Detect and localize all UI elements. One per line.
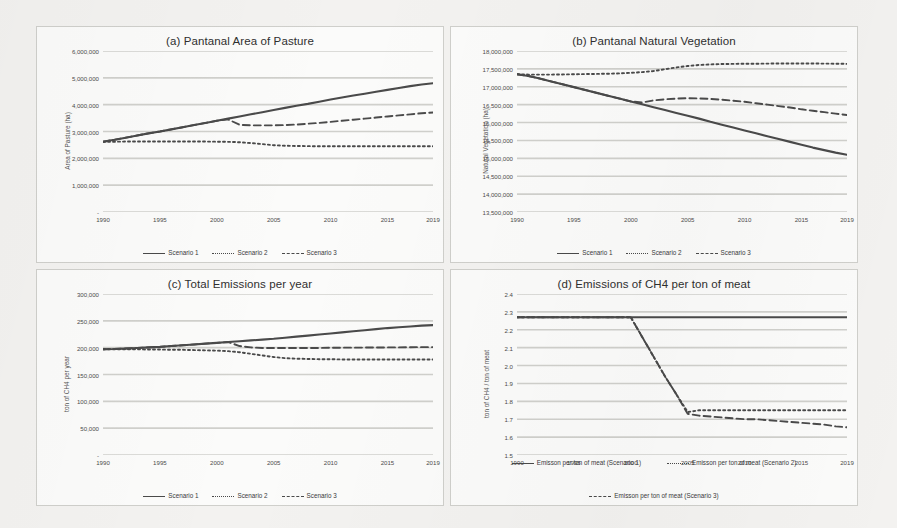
chart-title-c: (c) Total Emissions per year (37, 278, 443, 290)
y-tick-label: 1.5 (505, 452, 513, 459)
plot-area-a: Area of Pasture (ha) -1,000,0002,000,000… (37, 51, 439, 230)
y-tick-label: 17,000,000 (483, 83, 514, 90)
x-tick-label: 2019 (426, 216, 440, 223)
legend-swatch-dotted-icon (626, 250, 648, 256)
y-tick-label: 2,000,000 (72, 155, 99, 162)
y-tick-label: - (97, 452, 99, 459)
y-tick-label: 15,000,000 (483, 155, 514, 162)
y-axis-ticks-d: 1.51.61.71.81.92.02.12.22.32.4 (461, 294, 515, 455)
x-tick-label: 2005 (267, 216, 281, 223)
y-tick-label: 14,500,000 (483, 173, 514, 180)
y-tick-label: 1.9 (505, 380, 513, 387)
x-tick-label: 2000 (210, 216, 224, 223)
plot-canvas-b (517, 51, 847, 212)
x-tick-label: 2015 (381, 459, 395, 466)
legend-swatch-solid-icon (512, 460, 534, 466)
plot-canvas-d (517, 294, 847, 455)
legend-item[interactable]: Emisson per ton of meat (Scenario 2) (667, 459, 796, 466)
legend-label: Scenario 2 (651, 249, 681, 256)
y-tick-label: 50,000 (80, 425, 99, 432)
legend-item[interactable]: Scenario 3 (696, 249, 751, 256)
series-line (103, 141, 433, 146)
plot-area-d: ton of CH4 / ton of meat 1.51.61.71.81.9… (451, 294, 853, 473)
legend-item[interactable]: Scenario 3 (282, 249, 337, 256)
y-tick-label: - (97, 209, 99, 216)
x-tick-label: 1995 (153, 459, 167, 466)
legend-item[interactable]: Scenario 1 (557, 249, 612, 256)
chart-title-a: (a) Pantanal Area of Pasture (37, 35, 443, 47)
legend-item[interactable]: Emisson per ton of meat (Scenario 3) (589, 492, 718, 499)
y-axis-ticks-c: -50,000100,000150,000200,000250,000300,0… (47, 294, 101, 455)
x-tick-label: 2010 (324, 216, 338, 223)
series-line (103, 349, 433, 359)
y-tick-label: 100,000 (77, 398, 99, 405)
chart-panel-a: (a) Pantanal Area of Pasture Area of Pas… (36, 26, 444, 263)
chart-title-d: (d) Emissions of CH4 per ton of meat (451, 278, 857, 290)
y-tick-label: 250,000 (77, 317, 99, 324)
y-tick-label: 1.7 (505, 416, 513, 423)
legend-label: Scenario 3 (307, 249, 337, 256)
y-tick-label: 300,000 (77, 291, 99, 298)
legend-item[interactable]: Scenario 1 (143, 249, 198, 256)
x-tick-label: 1995 (567, 216, 581, 223)
y-tick-label: 14,000,000 (483, 191, 514, 198)
y-axis-ticks-a: -1,000,0002,000,0003,000,0004,000,0005,0… (47, 51, 101, 212)
series-lines-c (103, 294, 433, 455)
x-tick-label: 2005 (267, 459, 281, 466)
y-axis-ticks-b: 13,500,00014,000,00014,500,00015,000,000… (461, 51, 515, 212)
chart-panel-b: (b) Pantanal Natural Vegetation Natural … (450, 26, 858, 263)
x-tick-label: 2015 (381, 216, 395, 223)
chart-grid: (a) Pantanal Area of Pasture Area of Pas… (36, 26, 858, 506)
legend-swatch-dashed-icon (282, 250, 304, 256)
legend-item[interactable]: Emisson per ton of meat (Scenario 1) (512, 459, 641, 466)
legend-label: Scenario 1 (168, 249, 198, 256)
series-line (103, 325, 433, 349)
y-tick-label: 1.8 (505, 398, 513, 405)
y-tick-label: 150,000 (77, 371, 99, 378)
legend-label: Emisson per ton of meat (Scenario 3) (614, 492, 718, 499)
series-line (103, 112, 433, 141)
x-tick-label: 1990 (510, 216, 524, 223)
x-tick-label: 1995 (153, 216, 167, 223)
x-tick-label: 2000 (210, 459, 224, 466)
legend-item[interactable]: Scenario 3 (282, 492, 337, 499)
x-tick-label: 2015 (795, 216, 809, 223)
x-tick-label: 1990 (96, 216, 110, 223)
chart-panel-d: (d) Emissions of CH4 per ton of meat ton… (450, 269, 858, 506)
x-axis-ticks-c: 1990199520002005201020152019 (103, 457, 433, 473)
y-tick-label: 15,500,000 (483, 137, 514, 144)
figure-canvas: (a) Pantanal Area of Pasture Area of Pas… (0, 0, 897, 528)
y-tick-label: 4,000,000 (72, 101, 99, 108)
legend-item[interactable]: Scenario 2 (212, 249, 267, 256)
y-tick-label: 18,000,000 (483, 48, 514, 55)
legend-swatch-dashed-icon (589, 493, 611, 499)
x-tick-label: 2010 (324, 459, 338, 466)
y-tick-label: 16,000,000 (483, 119, 514, 126)
legend-swatch-dotted-icon (212, 493, 234, 499)
legend-swatch-dashed-icon (696, 250, 718, 256)
series-lines-b (517, 51, 847, 212)
legend-swatch-dashed-icon (282, 493, 304, 499)
plot-canvas-a (103, 51, 433, 212)
x-tick-label: 2005 (681, 216, 695, 223)
y-tick-label: 2.2 (505, 326, 513, 333)
y-tick-label: 1,000,000 (72, 182, 99, 189)
legend-label: Emisson per ton of meat (Scenario 1) (537, 459, 641, 466)
legend-item[interactable]: Scenario 2 (626, 249, 681, 256)
x-axis-ticks-a: 1990199520002005201020152019 (103, 214, 433, 230)
legend-swatch-dotted-icon (667, 460, 689, 466)
y-tick-label: 1.6 (505, 434, 513, 441)
legend-label: Scenario 3 (307, 492, 337, 499)
legend-swatch-dotted-icon (212, 250, 234, 256)
legend-item[interactable]: Scenario 1 (143, 492, 198, 499)
x-tick-label: 2019 (840, 216, 854, 223)
legend-swatch-solid-icon (143, 250, 165, 256)
y-tick-label: 17,500,000 (483, 65, 514, 72)
series-line (517, 74, 847, 115)
y-tick-label: 2.3 (505, 308, 513, 315)
y-tick-label: 200,000 (77, 344, 99, 351)
plot-area-c: ton of CH4 per year -50,000100,000150,00… (37, 294, 439, 473)
chart-panel-c: (c) Total Emissions per year ton of CH4 … (36, 269, 444, 506)
legend-item[interactable]: Scenario 2 (212, 492, 267, 499)
x-tick-label: 1990 (96, 459, 110, 466)
